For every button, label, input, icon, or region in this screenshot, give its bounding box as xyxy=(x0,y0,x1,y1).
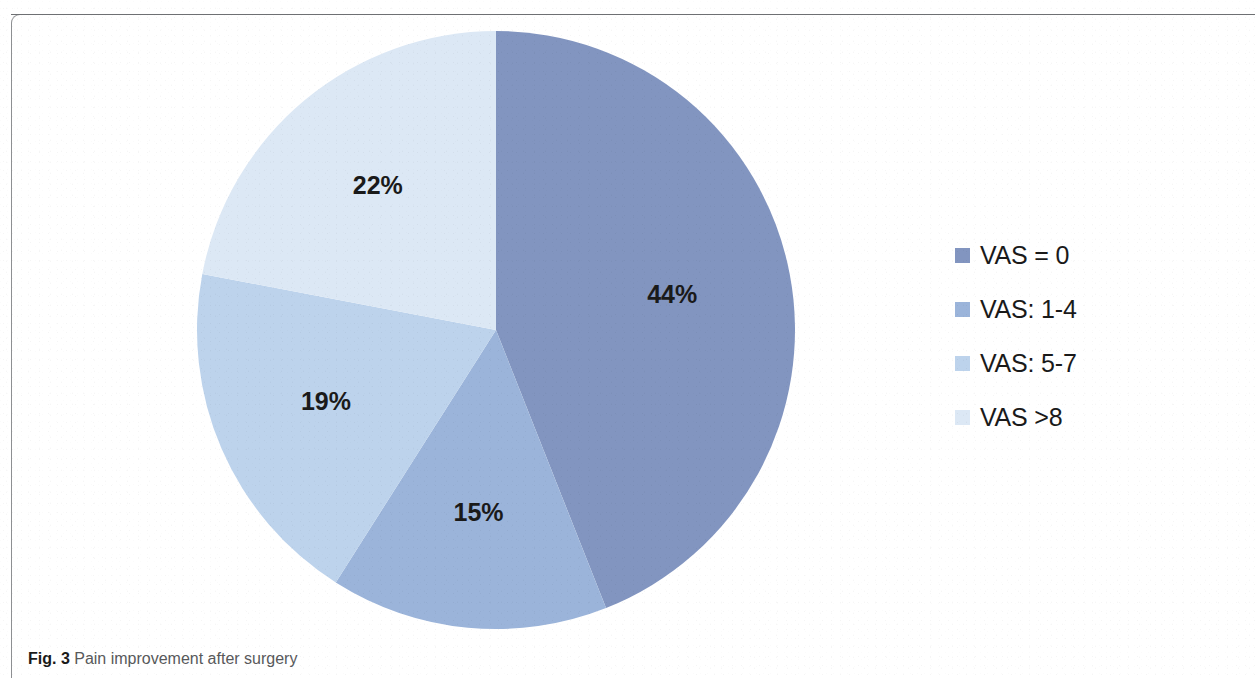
pie-chart: 44%15%19%22% xyxy=(197,29,795,631)
legend-item-label: VAS: 1-4 xyxy=(980,295,1077,324)
chart-legend: VAS = 0 VAS: 1-4 VAS: 5-7 VAS >8 xyxy=(955,228,1185,444)
pie-slice-value-label: 22% xyxy=(353,171,403,199)
figure-caption-text: Pain improvement after surgery xyxy=(70,650,298,667)
legend-swatch-icon xyxy=(955,248,970,263)
pie-slices xyxy=(197,31,795,629)
legend-item-vas-gt-8[interactable]: VAS >8 xyxy=(955,390,1185,444)
legend-item-vas-0[interactable]: VAS = 0 xyxy=(955,228,1185,282)
figure-number: Fig. 3 xyxy=(28,650,70,667)
legend-swatch-icon xyxy=(955,356,970,371)
figure-page: 44%15%19%22% VAS = 0 VAS: 1-4 VAS: 5-7 V… xyxy=(0,0,1255,678)
legend-item-vas-5-7[interactable]: VAS: 5-7 xyxy=(955,336,1185,390)
figure-caption: Fig. 3 Pain improvement after surgery xyxy=(28,650,297,668)
pie-slice-value-label: 15% xyxy=(454,498,504,526)
legend-swatch-icon xyxy=(955,410,970,425)
legend-item-vas-1-4[interactable]: VAS: 1-4 xyxy=(955,282,1185,336)
legend-item-label: VAS: 5-7 xyxy=(980,349,1077,378)
legend-swatch-icon xyxy=(955,302,970,317)
pie-slice-value-label: 44% xyxy=(647,280,697,308)
figure-border-top xyxy=(11,14,1255,15)
legend-item-label: VAS = 0 xyxy=(980,241,1069,270)
legend-item-label: VAS >8 xyxy=(980,403,1062,432)
pie-chart-svg: 44%15%19%22% xyxy=(197,29,795,631)
pie-slice-value-label: 19% xyxy=(301,387,351,415)
